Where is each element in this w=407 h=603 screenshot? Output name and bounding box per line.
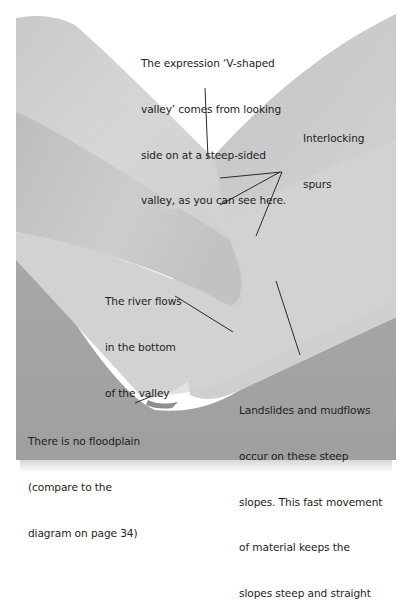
annotation-line: diagram on page 34) bbox=[28, 526, 140, 541]
annotation-line: valley’ comes from looking bbox=[141, 102, 286, 117]
annotation-line: of material keeps the bbox=[239, 540, 382, 555]
annotation-line: in the bottom bbox=[105, 340, 182, 355]
annotation-line: Interlocking bbox=[303, 131, 364, 146]
annotation-line: valley, as you can see here. bbox=[141, 193, 286, 208]
annotation-line: There is no floodplain bbox=[28, 434, 140, 449]
annotation-interlocking-spurs: Interlocking spurs bbox=[303, 101, 364, 223]
annotation-line: (compare to the bbox=[28, 480, 140, 495]
annotation-line: slopes steep and straight bbox=[239, 586, 382, 601]
annotation-steep-slopes: Landslides and mudflows occur on these s… bbox=[239, 373, 382, 603]
annotation-line: of the valley bbox=[105, 386, 182, 401]
annotation-line: occur on these steep bbox=[239, 449, 382, 464]
annotation-floodplain: There is no floodplain (compare to the d… bbox=[28, 404, 140, 571]
annotation-line: The river flows bbox=[105, 294, 182, 309]
annotation-line: The expression ‘V-shaped bbox=[141, 56, 286, 71]
annotation-line: spurs bbox=[303, 177, 364, 192]
annotation-line: Landslides and mudflows bbox=[239, 403, 382, 418]
annotation-line: side on at a steep-sided bbox=[141, 148, 286, 163]
annotation-v-shaped: The expression ‘V-shaped valley’ comes f… bbox=[141, 26, 286, 239]
annotation-line: slopes. This fast movement bbox=[239, 495, 382, 510]
